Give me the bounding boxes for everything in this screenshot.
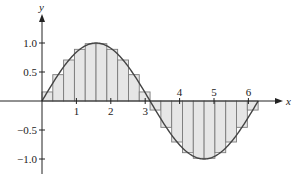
riemann-rectangle — [226, 101, 237, 142]
x-tick-label: 3 — [142, 105, 148, 117]
riemann-rectangle — [107, 49, 118, 101]
riemann-rectangle — [139, 92, 150, 101]
y-tick-label: −1.0 — [17, 153, 37, 165]
y-axis-label: y — [38, 1, 44, 13]
riemann-rectangle — [128, 75, 139, 101]
riemann-rectangle — [96, 44, 107, 101]
riemann-rectangle — [193, 101, 204, 158]
riemann-rectangle — [74, 49, 85, 101]
riemann-rectangle — [85, 44, 96, 101]
riemann-rectangle — [64, 60, 75, 101]
x-tick-label: 1 — [74, 105, 80, 117]
x-axis-arrow-icon — [275, 98, 283, 104]
x-tick-label: 5 — [211, 86, 217, 98]
riemann-rectangle — [215, 101, 226, 153]
riemann-rectangle — [150, 101, 161, 110]
riemann-rectangle — [118, 60, 129, 101]
y-tick-label: 1.0 — [23, 37, 37, 49]
y-axis-arrow-icon — [39, 14, 45, 22]
riemann-rectangle — [42, 92, 53, 101]
sine-riemann-chart: xy 1234561.00.5−0.5−1.0 — [0, 0, 302, 184]
x-tick-label: 6 — [246, 86, 252, 98]
riemann-rectangle — [182, 101, 193, 153]
y-tick-label: −0.5 — [17, 124, 37, 136]
x-axis-label: x — [285, 95, 291, 107]
x-tick-label: 2 — [108, 105, 114, 117]
y-tick-label: 0.5 — [23, 66, 37, 78]
riemann-rectangle — [204, 101, 215, 158]
riemann-rectangle — [237, 101, 248, 127]
x-tick-label: 4 — [177, 86, 183, 98]
riemann-rectangle — [161, 101, 172, 127]
riemann-rectangle — [172, 101, 183, 142]
riemann-rectangle — [53, 75, 64, 101]
